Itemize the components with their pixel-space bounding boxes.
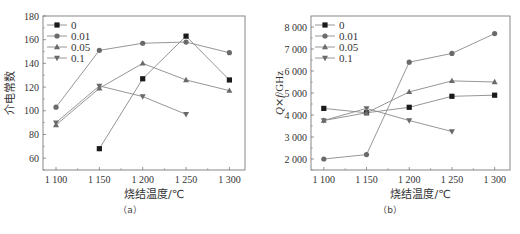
x-tick-label: 1 200: [131, 174, 154, 185]
y-tick-label: 80: [29, 129, 39, 140]
legend-marker-icon: [322, 33, 327, 38]
legend-marker-icon: [54, 22, 59, 27]
data-point-marker: [492, 31, 497, 36]
legend-marker-icon: [54, 44, 60, 49]
y-tick-label: 120: [24, 82, 39, 93]
y-tick-label: 2 000: [285, 154, 308, 165]
data-point-marker: [140, 76, 145, 81]
x-tick-label: 1 250: [175, 174, 198, 185]
legend-marker-icon: [54, 33, 59, 38]
series-line: [99, 36, 229, 149]
data-point-marker: [449, 129, 455, 134]
y-tick-label: 5 000: [285, 88, 308, 99]
legend-marker-icon: [322, 44, 328, 49]
chart-panel-a: 60801001201401601801 1001 1501 2001 2501…: [4, 11, 245, 216]
series-0-05: [321, 78, 498, 123]
data-point-marker: [183, 34, 188, 39]
x-tick-label: 1 150: [355, 174, 378, 185]
data-point-marker: [53, 105, 58, 110]
figure-caption: （a）: [118, 205, 142, 215]
data-point-marker: [407, 60, 412, 65]
x-tick-label: 1 100: [45, 174, 68, 185]
data-point-marker: [97, 48, 102, 53]
legend-item: 0.1: [47, 52, 85, 64]
y-tick-label: 4 000: [285, 110, 308, 121]
data-point-marker: [449, 51, 454, 56]
data-point-marker: [140, 41, 145, 46]
legend-label: 0.1: [339, 52, 353, 64]
data-point-marker: [407, 105, 412, 110]
figure: 60801001201401601801 1001 1501 2001 2501…: [0, 0, 520, 234]
y-tick-label: 160: [24, 34, 39, 45]
series-0: [97, 34, 232, 152]
x-axis-title: 烧结温度/℃: [124, 187, 184, 201]
legend-item: 0.1: [315, 52, 353, 64]
figure-caption: （b）: [378, 205, 402, 215]
chart-panel-b: 2 0003 0004 0005 0006 0007 0008 0001 100…: [273, 16, 510, 215]
series-0: [321, 93, 497, 116]
legend-label: 0.1: [71, 52, 85, 64]
series-line: [324, 81, 495, 121]
legend: 00.010.050.1: [47, 19, 91, 64]
y-tick-label: 7 000: [285, 44, 308, 55]
x-axis-title: 烧结温度/℃: [390, 187, 450, 201]
data-point-marker: [449, 94, 454, 99]
data-point-marker: [449, 78, 455, 83]
series-0-05: [53, 60, 232, 127]
series-line: [324, 108, 452, 131]
y-tick-label: 60: [29, 153, 39, 164]
legend-marker-icon: [54, 56, 60, 61]
y-tick-label: 180: [24, 11, 39, 22]
x-tick-label: 1 200: [398, 174, 421, 185]
y-axis-title: Q×f/GHz: [273, 71, 286, 115]
data-point-marker: [364, 152, 369, 157]
series-0-1: [53, 84, 189, 126]
y-tick-label: 100: [24, 105, 39, 116]
x-tick-label: 1 250: [441, 174, 464, 185]
x-tick-label: 1 100: [313, 174, 336, 185]
series-line: [56, 86, 186, 123]
data-point-marker: [321, 118, 327, 123]
y-tick-label: 3 000: [285, 132, 308, 143]
x-tick-label: 1 150: [88, 174, 111, 185]
legend-marker-icon: [322, 56, 328, 61]
data-point-marker: [321, 156, 326, 161]
data-point-marker: [140, 60, 146, 65]
y-tick-label: 6 000: [285, 66, 308, 77]
data-point-marker: [227, 50, 232, 55]
y-tick-label: 8 000: [285, 22, 308, 33]
x-tick-label: 1 300: [483, 174, 506, 185]
data-point-marker: [183, 39, 188, 44]
x-tick-label: 1 300: [218, 174, 241, 185]
data-point-marker: [492, 93, 497, 98]
legend: 00.010.050.1: [315, 19, 359, 64]
y-axis-title: 介电常数: [4, 71, 17, 115]
data-point-marker: [227, 77, 232, 82]
data-point-marker: [97, 146, 102, 151]
series-line: [324, 95, 495, 113]
data-point-marker: [321, 106, 326, 111]
y-tick-label: 140: [24, 58, 39, 69]
data-point-marker: [183, 112, 189, 117]
legend-marker-icon: [322, 22, 327, 27]
